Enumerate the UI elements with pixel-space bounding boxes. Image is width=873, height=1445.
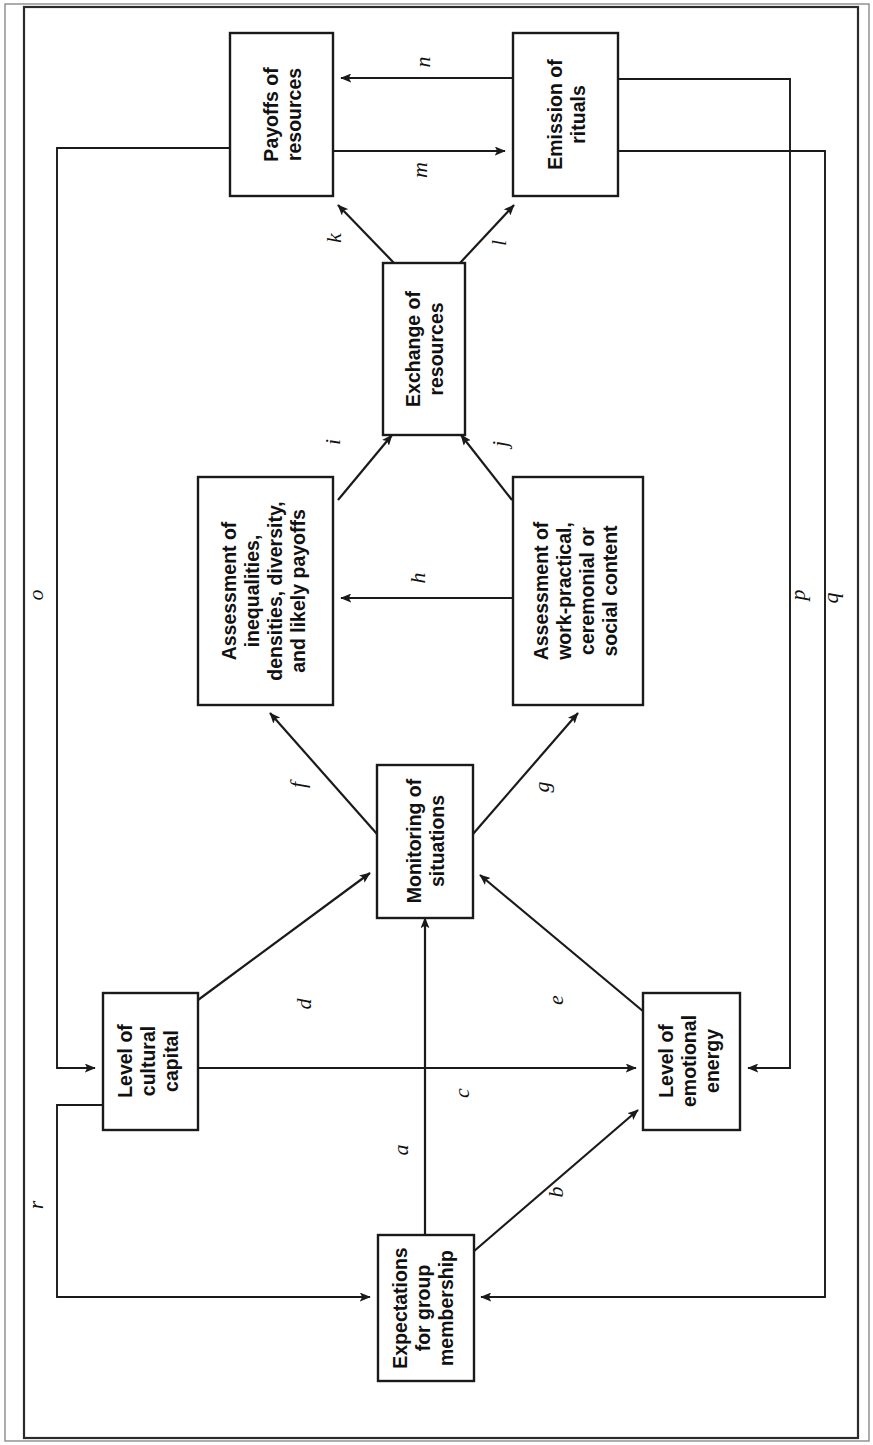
node-label-line2: resources bbox=[425, 302, 447, 395]
node-box bbox=[513, 33, 618, 196]
node-level-of-emotional-energy: Level of emotional energy bbox=[643, 993, 740, 1130]
edge-label-q: q bbox=[818, 593, 843, 604]
edge-i-line bbox=[338, 435, 392, 500]
node-label-line1: Exchange of bbox=[402, 291, 424, 407]
node-expectations-for-group-membership: Expectations for group membership bbox=[378, 1235, 474, 1381]
edge-label-b: b bbox=[543, 1187, 568, 1198]
edge-label-m: m bbox=[407, 162, 432, 178]
page-outer-border bbox=[5, 4, 869, 1441]
edge-label-i: i bbox=[320, 439, 345, 445]
edge-label-e: e bbox=[543, 995, 568, 1005]
node-label-line3: capital bbox=[160, 1030, 182, 1092]
edge-label-a: a bbox=[388, 1145, 413, 1156]
node-label-line1: Assessment of bbox=[218, 521, 240, 660]
node-label-line3: energy bbox=[701, 1029, 723, 1093]
edge-k-line bbox=[338, 205, 394, 263]
edge-d-line bbox=[198, 873, 370, 1000]
figure-page: Payoffs of resources Emission of rituals… bbox=[0, 0, 873, 1445]
node-label-line1: Monitoring of bbox=[403, 778, 425, 903]
node-label-line2: cultural bbox=[137, 1026, 159, 1096]
diagram-canvas: Payoffs of resources Emission of rituals… bbox=[0, 0, 873, 1445]
edge-label-f: f bbox=[285, 779, 310, 788]
node-label-line3: ceremonial or bbox=[576, 527, 598, 655]
node-label-line3: densities, diversity, bbox=[264, 501, 286, 681]
node-monitoring-of-situations: Monitoring of situations bbox=[377, 765, 473, 918]
edge-label-g: g bbox=[529, 782, 554, 793]
node-emission-of-rituals: Emission of rituals bbox=[513, 33, 618, 196]
node-label-line2: rituals bbox=[567, 85, 589, 144]
edge-label-l: l bbox=[486, 240, 511, 246]
edge-label-p: p bbox=[785, 590, 810, 603]
node-assessment-of-inequalities: Assessment of inequalities, densities, d… bbox=[198, 477, 333, 705]
node-label-line1: Assessment of bbox=[530, 521, 552, 660]
edge-e-line bbox=[480, 875, 644, 1012]
edge-r-line bbox=[57, 1105, 370, 1297]
edge-label-o: o bbox=[23, 590, 48, 601]
edge-label-c: c bbox=[449, 1088, 474, 1098]
figure-border bbox=[24, 7, 858, 1438]
edge-label-k: k bbox=[321, 232, 346, 243]
node-payoffs-of-resources: Payoffs of resources bbox=[230, 33, 333, 196]
node-label-line4: and likely payoffs bbox=[287, 509, 309, 673]
edge-label-d: d bbox=[291, 998, 316, 1010]
node-label-line3: membership bbox=[435, 1250, 457, 1366]
node-label-line2: for group bbox=[412, 1265, 434, 1352]
node-label-line4: social content bbox=[599, 525, 621, 657]
node-label-line2: resources bbox=[283, 68, 305, 161]
node-label-line1: Payoffs of bbox=[260, 67, 282, 162]
edge-g-line bbox=[473, 713, 578, 834]
node-level-of-cultural-capital: Level of cultural capital bbox=[103, 993, 198, 1130]
node-label-line2: inequalities, bbox=[241, 535, 263, 648]
edge-b-line bbox=[473, 1110, 638, 1252]
node-label-line1: Level of bbox=[655, 1024, 677, 1098]
edge-label-n: n bbox=[410, 57, 435, 68]
node-box bbox=[377, 765, 473, 918]
edge-l-line bbox=[460, 205, 514, 263]
edge-label-j: j bbox=[487, 441, 512, 450]
node-label-line1: Expectations bbox=[389, 1247, 411, 1369]
node-box bbox=[230, 33, 333, 196]
node-label-line2: work-practical, bbox=[553, 522, 575, 661]
node-box bbox=[383, 263, 465, 435]
edge-label-r: r bbox=[23, 1200, 48, 1209]
node-label-line2: situations bbox=[426, 795, 448, 887]
node-label-line2: emotional bbox=[678, 1015, 700, 1107]
node-label-line1: Emission of bbox=[544, 59, 566, 170]
node-assessment-of-work-practical: Assessment of work-practical, ceremonial… bbox=[513, 477, 643, 705]
edge-f-line bbox=[270, 713, 377, 834]
edge-label-h: h bbox=[405, 573, 430, 584]
node-exchange-of-resources: Exchange of resources bbox=[383, 263, 465, 435]
node-label-line1: Level of bbox=[114, 1024, 136, 1098]
